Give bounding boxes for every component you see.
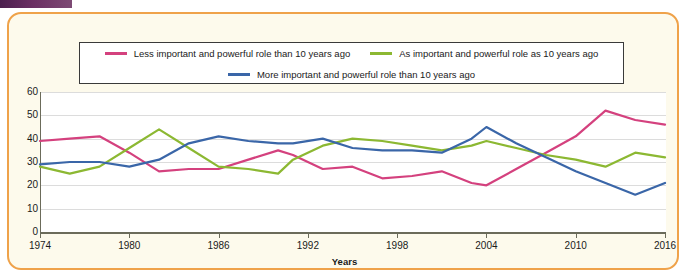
x-axis-tick-label: 2010: [565, 240, 587, 251]
y-axis-tick-label: 60: [10, 87, 38, 97]
x-axis-tick-mark: [308, 232, 309, 238]
page-header-bar: [0, 0, 72, 8]
legend-swatch-as-icon: [370, 52, 392, 55]
legend-item-more: More important and powerful role than 10…: [228, 69, 475, 80]
x-axis-tick-label: 2004: [475, 240, 497, 251]
x-axis-tick-label: 1998: [386, 240, 408, 251]
plot-area: [40, 92, 666, 233]
legend-swatch-more-icon: [228, 73, 250, 76]
gridline: [41, 209, 666, 210]
x-axis-tick-label: 1980: [118, 240, 140, 251]
y-axis-tick-label: 0: [10, 227, 38, 237]
x-axis-tick-mark: [219, 232, 220, 238]
gridline: [41, 162, 666, 163]
y-axis-tick-label: 20: [10, 180, 38, 190]
x-axis-title: Years: [0, 256, 689, 267]
x-axis-tick-mark: [397, 232, 398, 238]
y-axis-tick-label: 30: [10, 157, 38, 167]
chart-legend: Less important and powerful role than 10…: [79, 42, 624, 84]
legend-row-1: Less important and powerful role than 10…: [80, 43, 623, 64]
y-axis-tick-label: 40: [10, 134, 38, 144]
x-axis-tick-mark: [486, 232, 487, 238]
y-axis-labels: 6050403020100: [10, 85, 38, 240]
x-axis-line: [40, 232, 665, 234]
gridline: [41, 115, 666, 116]
legend-item-less: Less important and powerful role than 10…: [105, 48, 351, 59]
x-axis-tick-mark: [665, 232, 666, 238]
x-axis-tick-label: 2016: [654, 240, 676, 251]
legend-row-2: More important and powerful role than 10…: [80, 64, 623, 85]
gridline: [41, 139, 666, 140]
legend-label-more: More important and powerful role than 10…: [257, 69, 475, 80]
legend-swatch-less-icon: [105, 52, 127, 55]
gridline: [41, 92, 666, 93]
x-axis-tick-mark: [40, 232, 41, 238]
legend-item-as: As important and powerful role as 10 yea…: [370, 48, 598, 59]
legend-label-as: As important and powerful role as 10 yea…: [399, 48, 598, 59]
y-axis-tick-label: 10: [10, 204, 38, 214]
x-axis-tick-mark: [576, 232, 577, 238]
x-axis-tick-label: 1974: [29, 240, 51, 251]
y-axis-tick-label: 50: [10, 110, 38, 120]
x-axis-tick-label: 1986: [207, 240, 229, 251]
x-axis-tick-mark: [129, 232, 130, 238]
x-axis-tick-label: 1992: [297, 240, 319, 251]
legend-label-less: Less important and powerful role than 10…: [134, 48, 351, 59]
gridline: [41, 185, 666, 186]
